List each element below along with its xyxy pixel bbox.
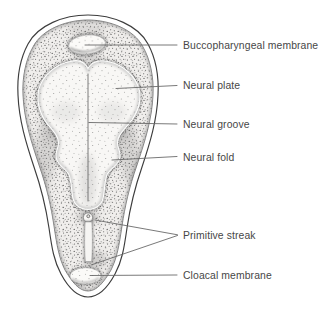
label-primitive-streak: Primitive streak bbox=[183, 230, 256, 241]
buccopharyngeal-membrane-shape bbox=[68, 33, 107, 56]
embryo-diagram-canvas: Buccopharyngeal membrane Neural plate Ne… bbox=[0, 0, 331, 311]
primitive-streak-shape bbox=[85, 222, 93, 262]
embryo-illustration bbox=[10, 12, 170, 302]
label-neural-groove: Neural groove bbox=[183, 119, 250, 130]
leader-cloacal-membrane bbox=[90, 275, 177, 276]
label-neural-fold: Neural fold bbox=[183, 152, 234, 163]
embryo-diagram: Buccopharyngeal membrane Neural plate Ne… bbox=[0, 0, 331, 311]
cloacal-membrane-shape bbox=[70, 268, 101, 285]
label-buccopharyngeal-membrane: Buccopharyngeal membrane bbox=[183, 40, 318, 51]
label-cloacal-membrane: Cloacal membrane bbox=[183, 270, 272, 281]
labels: Buccopharyngeal membrane Neural plate Ne… bbox=[183, 40, 318, 281]
label-neural-plate: Neural plate bbox=[183, 80, 240, 91]
primitive-pit bbox=[87, 215, 90, 218]
primitive-node-shape bbox=[83, 213, 92, 222]
